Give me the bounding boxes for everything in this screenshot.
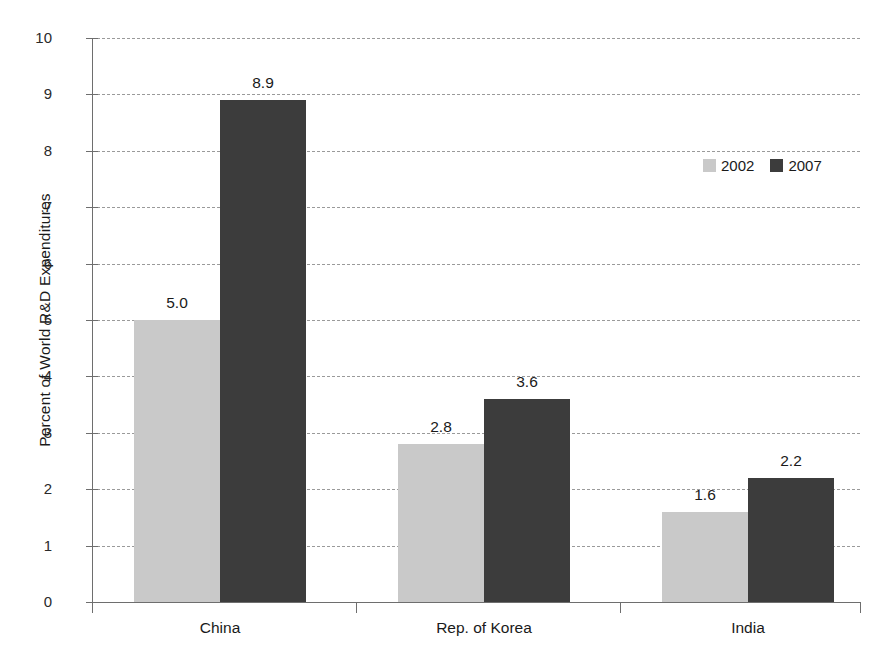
- x-tick: [860, 602, 861, 613]
- y-tick-label: 2: [12, 481, 52, 496]
- legend-swatch-2002-icon: [703, 159, 716, 172]
- bar-value-label: 8.9: [220, 75, 306, 91]
- legend-swatch-2007-icon: [770, 159, 783, 172]
- plot-area: 5.08.92.83.61.62.2: [92, 38, 860, 602]
- y-tick-label: 10: [12, 30, 52, 45]
- legend-label-2002: 2002: [721, 158, 754, 173]
- legend-item-2002[interactable]: 2002: [703, 158, 754, 173]
- bar-chart: Percent of World R&D Expenditures 012345…: [0, 0, 887, 656]
- y-tick-label: 1: [12, 538, 52, 553]
- bar-value-label: 2.8: [398, 419, 484, 435]
- bar-china-2002[interactable]: [134, 320, 220, 602]
- bar-value-label: 2.2: [748, 453, 834, 469]
- x-axis-line: [92, 602, 860, 603]
- legend: 2002 2007: [703, 158, 822, 173]
- x-tick: [92, 602, 93, 613]
- bar-value-label: 5.0: [134, 295, 220, 311]
- y-tick-label: 5: [12, 312, 52, 327]
- y-tick-label: 3: [12, 425, 52, 440]
- x-category-label: India: [648, 620, 848, 636]
- y-tick-label: 7: [12, 199, 52, 214]
- x-category-label: Rep. of Korea: [384, 620, 584, 636]
- bar-rep-of-korea-2002[interactable]: [398, 444, 484, 602]
- bar-china-2007[interactable]: [220, 100, 306, 602]
- y-tick-label: 6: [12, 256, 52, 271]
- y-tick-label: 8: [12, 143, 52, 158]
- x-tick: [620, 602, 621, 613]
- bar-value-label: 3.6: [484, 374, 570, 390]
- y-tick-label: 9: [12, 86, 52, 101]
- bar-rep-of-korea-2007[interactable]: [484, 399, 570, 602]
- x-category-label: China: [120, 620, 320, 636]
- legend-item-2007[interactable]: 2007: [770, 158, 821, 173]
- bar-india-2002[interactable]: [662, 512, 748, 602]
- x-tick: [356, 602, 357, 613]
- y-tick-label: 0: [12, 594, 52, 609]
- bar-value-label: 1.6: [662, 487, 748, 503]
- bar-india-2007[interactable]: [748, 478, 834, 602]
- y-tick-label: 4: [12, 368, 52, 383]
- legend-label-2007: 2007: [788, 158, 821, 173]
